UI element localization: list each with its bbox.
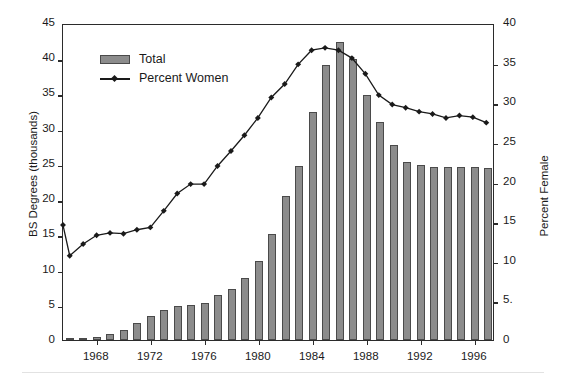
line-marker-4 xyxy=(107,230,113,236)
legend-label-percent-women: Percent Women xyxy=(139,69,228,88)
y-right-tick-label-25: 25 xyxy=(503,135,543,147)
legend-bar-swatch-icon xyxy=(100,55,130,64)
y-right-tickmark-20 xyxy=(493,184,498,185)
y-right-tick-label-30: 30 xyxy=(503,95,543,107)
y-left-tick-label-10: 10 xyxy=(15,263,55,275)
y-right-tick-label-5: 5. xyxy=(503,293,543,305)
y-right-tick-label-0: 0 xyxy=(503,333,543,345)
y-left-tickmark-25 xyxy=(58,166,63,167)
x-tick-label-1992: 1992 xyxy=(390,350,450,362)
y-right-tickmark-30 xyxy=(493,104,498,105)
y-left-tick-label-45: 45 xyxy=(15,16,55,28)
line-marker-32 xyxy=(483,120,489,126)
x-tick-label-1976: 1976 xyxy=(174,350,234,362)
x-tick-label-1996: 1996 xyxy=(444,350,504,362)
line-marker-26 xyxy=(403,105,409,111)
y-left-tick-label-20: 20 xyxy=(15,192,55,204)
x-tickmark-1972 xyxy=(151,340,152,345)
x-tick-label-1984: 1984 xyxy=(282,350,342,362)
legend-line-swatch-icon xyxy=(100,74,130,83)
y-right-tickmark-25 xyxy=(493,144,498,145)
y-left-tick-label-0: 0 xyxy=(15,333,55,345)
line-marker-21 xyxy=(336,47,342,53)
y-axis-right-title: Percent Female xyxy=(538,126,550,266)
y-right-tick-label-40: 40 xyxy=(503,16,543,28)
y-left-tick-label-40: 40 xyxy=(15,51,55,63)
x-tickmark-1980 xyxy=(259,340,260,345)
footer-divider xyxy=(22,372,544,373)
y-left-tickmark-40 xyxy=(58,60,63,61)
line-marker-0 xyxy=(60,222,66,228)
legend-item-percent-women: Percent Women xyxy=(100,69,228,88)
x-tickmark-1976 xyxy=(205,340,206,345)
y-left-tick-label-25: 25 xyxy=(15,157,55,169)
chart-figure: BS Degrees (thousands) Percent Female 05… xyxy=(0,0,566,382)
y-axis-left-title: BS Degrees (thousands) xyxy=(27,79,39,269)
line-marker-30 xyxy=(456,113,462,119)
x-tick-label-1988: 1988 xyxy=(336,350,396,362)
y-right-tickmark-15 xyxy=(493,223,498,224)
y-right-tick-label-35: 35 xyxy=(503,56,543,68)
y-right-tick-label-10: 10 xyxy=(503,254,543,266)
line-marker-28 xyxy=(430,111,436,117)
y-right-tickmark-5 xyxy=(493,302,498,303)
x-tickmark-1992 xyxy=(421,340,422,345)
y-left-tickmark-30 xyxy=(58,131,63,132)
x-tickmark-1996 xyxy=(475,340,476,345)
y-right-tick-label-20: 20 xyxy=(503,175,543,187)
y-left-tick-label-5: 5 xyxy=(15,298,55,310)
y-left-tick-label-15: 15 xyxy=(15,227,55,239)
y-left-tick-label-35: 35 xyxy=(15,86,55,98)
x-tickmark-1968 xyxy=(97,340,98,345)
line-marker-20 xyxy=(322,45,328,51)
x-tick-label-1968: 1968 xyxy=(66,350,126,362)
y-left-tickmark-10 xyxy=(58,272,63,273)
y-left-tickmark-35 xyxy=(58,95,63,96)
x-tickmark-1988 xyxy=(367,340,368,345)
line-marker-5 xyxy=(121,231,127,237)
line-marker-29 xyxy=(443,115,449,121)
x-tick-label-1980: 1980 xyxy=(228,350,288,362)
y-left-tickmark-15 xyxy=(58,236,63,237)
line-marker-31 xyxy=(470,114,476,120)
line-marker-27 xyxy=(416,109,422,115)
y-left-tickmark-20 xyxy=(58,201,63,202)
y-right-tickmark-10 xyxy=(493,263,498,264)
y-left-tickmark-5 xyxy=(58,307,63,308)
y-left-tick-label-30: 30 xyxy=(15,122,55,134)
legend-label-total: Total xyxy=(139,50,165,69)
chart-legend: Total Percent Women xyxy=(100,50,228,88)
legend-item-total: Total xyxy=(100,50,228,69)
y-right-tick-label-15: 15 xyxy=(503,214,543,226)
x-tickmark-1984 xyxy=(313,340,314,345)
line-marker-6 xyxy=(134,227,140,233)
x-tick-label-1972: 1972 xyxy=(120,350,180,362)
y-right-tickmark-35 xyxy=(493,65,498,66)
